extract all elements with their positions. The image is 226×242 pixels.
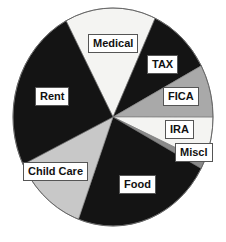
slice-label-tax: TAX [147,55,178,74]
slice-label-ira: IRA [165,120,194,139]
slice-label-fica: FICA [163,87,199,106]
slice-label-rent: Rent [35,87,69,106]
slice-label-food: Food [119,175,156,194]
slice-label-medical: Medical [88,34,138,53]
slice-label-child-care: Child Care [23,162,88,181]
slice-label-miscl: Miscl [175,143,213,162]
